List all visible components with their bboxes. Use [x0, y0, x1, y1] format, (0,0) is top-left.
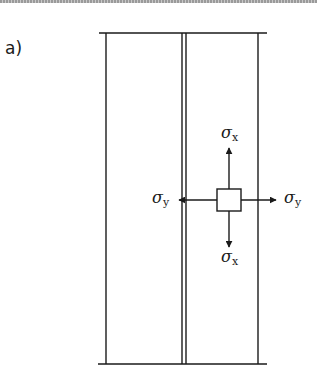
label-sigma-y-left: σy — [152, 188, 170, 209]
label-sigma-y-right: σy — [284, 188, 302, 209]
label-sigma-x-bottom: σx — [221, 247, 239, 268]
stress-diagram: σx σx σy σy — [0, 0, 317, 379]
stress-element-square — [217, 189, 241, 211]
label-sigma-x-top: σx — [221, 123, 239, 144]
